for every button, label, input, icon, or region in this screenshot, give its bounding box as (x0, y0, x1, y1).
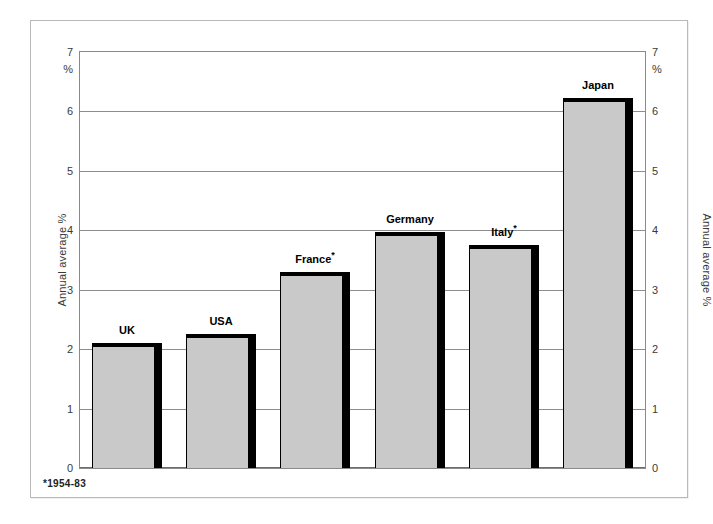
bar-face (469, 245, 531, 468)
y-axis-title-right: Annual average % (701, 213, 713, 306)
y-axis-unit-left: % (63, 64, 73, 75)
bar-label: France* (280, 253, 350, 265)
bar-top-bevel (531, 245, 539, 249)
bar-side-shadow (625, 102, 633, 468)
bar-face (375, 232, 437, 468)
y-tick-right-4: 4 (652, 225, 658, 236)
y-tick-right-5: 5 (652, 166, 658, 177)
y-tick-right-2: 2 (652, 344, 658, 355)
bar-germany[interactable]: Germany (375, 228, 445, 468)
bar-japan[interactable]: Japan (563, 94, 633, 468)
bar-side-shadow (531, 249, 539, 468)
bar-uk[interactable]: UK (92, 339, 162, 468)
y-tick-left-7: 7 (67, 47, 73, 58)
bar-label: USA (186, 315, 256, 327)
footnote: *1954-83 (43, 478, 86, 489)
y-axis-unit-right: % (652, 64, 662, 75)
y-tick-right-1: 1 (652, 404, 658, 415)
figure-card: 0011223344556677 % % Annual average % An… (30, 20, 688, 498)
bar-face (186, 334, 248, 468)
bar-top-bevel (154, 343, 162, 347)
bar-top-bevel (437, 232, 445, 236)
bar-face (280, 272, 342, 468)
y-axis-title-left: Annual average % (56, 213, 68, 306)
y-tick-left-6: 6 (67, 106, 73, 117)
y-tick-right-6: 6 (652, 106, 658, 117)
plot-area: 0011223344556677 % % Annual average % An… (79, 51, 646, 469)
y-tick-right-7: 7 (652, 47, 658, 58)
y-tick-right-3: 3 (652, 285, 658, 296)
y-tick-left-5: 5 (67, 166, 73, 177)
bar-france[interactable]: France* (280, 268, 350, 468)
y-tick-right-0: 0 (652, 463, 658, 474)
bar-label: Japan (563, 79, 633, 91)
bar-label: Italy* (469, 226, 539, 238)
bar-top-bevel (248, 334, 256, 338)
bar-label: UK (92, 324, 162, 336)
y-tick-left-2: 2 (67, 344, 73, 355)
bar-face (92, 343, 154, 468)
bar-usa[interactable]: USA (186, 330, 256, 468)
bar-side-shadow (154, 347, 162, 468)
bar-side-shadow (342, 276, 350, 468)
bar-side-shadow (437, 236, 445, 468)
bar-top-bevel (342, 272, 350, 276)
bar-series: UKUSAFrance*GermanyItaly*Japan (80, 52, 645, 468)
bar-italy[interactable]: Italy* (469, 241, 539, 468)
y-tick-left-1: 1 (67, 404, 73, 415)
bar-label: Germany (375, 213, 445, 225)
bar-top-bevel (625, 98, 633, 102)
y-tick-left-0: 0 (67, 463, 73, 474)
bar-face (563, 98, 625, 468)
bar-side-shadow (248, 338, 256, 468)
